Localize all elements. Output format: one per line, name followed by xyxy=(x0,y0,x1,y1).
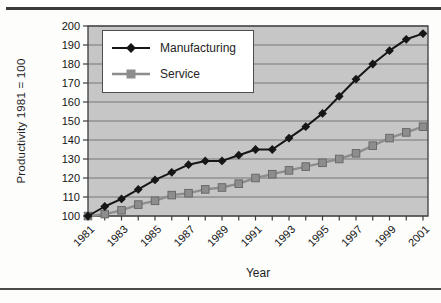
y-tick-label: 180 xyxy=(62,58,80,70)
service-marker xyxy=(302,163,310,171)
legend-label-manufacturing: Manufacturing xyxy=(160,41,236,55)
bottom-rule xyxy=(0,288,441,290)
x-tick-label: 1991 xyxy=(238,223,264,249)
x-tick-label: 1987 xyxy=(171,223,197,249)
service-marker xyxy=(402,129,410,137)
service-marker xyxy=(352,150,360,158)
x-tick-label: 1983 xyxy=(104,223,130,249)
service-marker xyxy=(252,174,260,182)
y-tick-label: 140 xyxy=(62,134,80,146)
service-marker xyxy=(218,184,226,192)
service-marker xyxy=(168,191,176,199)
y-tick-label: 190 xyxy=(62,39,80,51)
y-tick-label: 100 xyxy=(62,210,80,222)
x-tick-label: 1993 xyxy=(272,223,298,249)
x-tick-label: 1989 xyxy=(205,223,231,249)
service-marker xyxy=(201,186,209,194)
y-tick-label: 160 xyxy=(62,96,80,108)
manufacturing-swatch-icon xyxy=(111,42,151,54)
y-tick-label: 130 xyxy=(62,153,80,165)
x-tick-label: 1985 xyxy=(138,223,164,249)
service-marker xyxy=(386,134,394,142)
service-marker xyxy=(369,142,377,150)
y-tick-label: 200 xyxy=(62,20,80,32)
x-tick-label: 1995 xyxy=(305,223,331,249)
y-tick-label: 150 xyxy=(62,115,80,127)
y-tick-label: 120 xyxy=(62,172,80,184)
service-marker xyxy=(101,210,109,218)
service-marker xyxy=(419,123,427,131)
scanned-chart-figure: 1001101201301401501601701801902001981198… xyxy=(0,0,441,303)
legend-label-service: Service xyxy=(160,67,200,81)
y-tick-label: 110 xyxy=(62,191,80,203)
service-marker xyxy=(185,189,193,197)
y-axis-title: Productivity 1981 = 100 xyxy=(15,58,27,183)
x-tick-label: 1981 xyxy=(71,223,97,249)
y-tick-label: 170 xyxy=(62,77,80,89)
service-marker xyxy=(335,155,343,163)
x-axis-title: Year xyxy=(246,266,270,280)
x-tick-label: 1999 xyxy=(372,223,398,249)
service-marker xyxy=(268,170,276,178)
legend-item-service: Service xyxy=(111,64,245,84)
service-marker xyxy=(319,159,327,167)
legend-item-manufacturing: Manufacturing xyxy=(111,38,245,58)
service-swatch-icon xyxy=(111,68,151,80)
service-marker xyxy=(134,201,142,209)
service-marker xyxy=(118,207,126,215)
x-tick-label: 2001 xyxy=(406,223,432,249)
service-marker xyxy=(151,197,159,205)
x-tick-label: 1997 xyxy=(339,223,365,249)
legend: Manufacturing Service xyxy=(102,30,254,93)
service-marker xyxy=(235,180,243,188)
service-marker xyxy=(285,167,293,175)
